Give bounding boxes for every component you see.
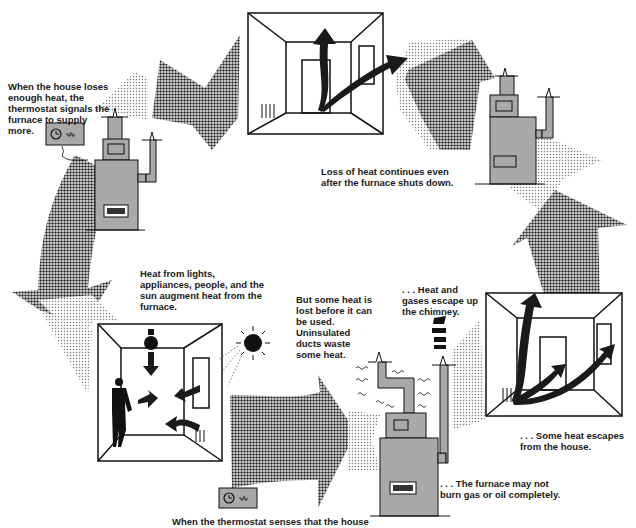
caption-thermostat-signals: When the house loses enough heat, the th… xyxy=(8,81,109,136)
caption-line: after the furnace shuts down. xyxy=(321,177,454,188)
caption-line: sun augment heat from the xyxy=(140,290,264,301)
caption-line: . . . Some heat escapes xyxy=(520,430,624,441)
caption-line: ducts waste xyxy=(296,338,372,349)
cycle-arrow-right-lower xyxy=(452,320,485,430)
caption-line: burn gas or oil completely. xyxy=(440,489,560,500)
caption-line: lost before it can xyxy=(296,305,372,316)
caption-line: the chimney. xyxy=(402,306,478,317)
caption-line: furnace to supply xyxy=(8,114,109,125)
caption-line: But some heat is xyxy=(296,294,372,305)
caption-line: . . . The furnace may not xyxy=(440,478,560,489)
caption-line: appliances, people, and the xyxy=(140,279,264,290)
caption-line: more. xyxy=(8,125,109,136)
caption-line: from the house. xyxy=(520,441,624,452)
caption-chimney-loss: . . . Heat and gases escape up the chimn… xyxy=(402,284,478,317)
caption-line: Uninsulated xyxy=(296,327,372,338)
caption-line: Loss of heat continues even xyxy=(321,166,454,177)
heating-cycle-diagram: When the house loses enough heat, the th… xyxy=(0,0,636,528)
caption-line: some heat. xyxy=(296,349,372,360)
caption-line: gases escape up xyxy=(402,295,478,306)
caption-incomplete-burn: . . . The furnace may not burn gas or oi… xyxy=(440,478,560,500)
caption-heat-continues: Loss of heat continues even after the fu… xyxy=(321,166,454,188)
caption-line: furnace. xyxy=(140,301,264,312)
caption-line: thermostat signals the xyxy=(8,103,109,114)
thermostat-bottom xyxy=(219,488,257,508)
chimney-smoke xyxy=(432,316,446,349)
room-top xyxy=(248,13,383,134)
caption-line: When the house loses xyxy=(8,81,109,92)
sun-icon xyxy=(218,326,270,385)
caption-line: be used. xyxy=(296,316,372,327)
caption-heat-augment: Heat from lights, appliances, people, an… xyxy=(140,268,264,312)
caption-line: . . . Heat and xyxy=(402,284,478,295)
cycle-arrow-top-right xyxy=(395,38,495,150)
caption-duct-loss: But some heat is lost before it can be u… xyxy=(296,294,372,360)
caption-line: enough heat, the xyxy=(8,92,109,103)
caption-line: Heat from lights, xyxy=(140,268,264,279)
caption-house-escape: . . . Some heat escapes from the house. xyxy=(520,430,624,452)
caption-line: When the thermostat senses that the hous… xyxy=(172,516,369,527)
caption-thermostat-senses: When the thermostat senses that the hous… xyxy=(172,516,369,527)
